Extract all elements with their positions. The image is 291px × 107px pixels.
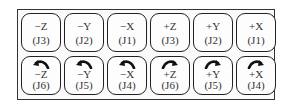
joint-label: (J1) <box>247 34 264 46</box>
jog-minus-ry-j5-button[interactable]: −Y (J5) <box>64 56 104 95</box>
axis-label: +X <box>249 20 263 32</box>
jog-minus-rz-j6-button[interactable]: −Z (J6) <box>21 56 61 95</box>
jog-plus-z-j3-button[interactable]: +Z (J3) <box>150 13 190 52</box>
joint-label: (J3) <box>32 34 49 46</box>
jog-minus-y-j2-button[interactable]: −Y (J2) <box>64 13 104 52</box>
axis-label: +X <box>249 69 263 79</box>
axis-label: +Y <box>206 20 220 32</box>
axis-label: −Y <box>77 20 91 32</box>
axis-label: +Y <box>206 69 220 79</box>
joint-label: (J5) <box>204 79 221 91</box>
joint-label: (J1) <box>118 34 135 46</box>
axis-label: −X <box>120 69 134 79</box>
joint-label: (J2) <box>204 34 221 46</box>
joint-label: (J3) <box>161 34 178 46</box>
axis-label: −Z <box>35 20 48 32</box>
axis-label: −Z <box>35 69 48 79</box>
joint-label: (J6) <box>32 79 49 91</box>
jog-plus-x-j1-button[interactable]: +X (J1) <box>236 13 276 52</box>
jog-minus-rx-j4-button[interactable]: −X (J4) <box>107 56 147 95</box>
axis-label: +Z <box>164 20 177 32</box>
jog-minus-z-j3-button[interactable]: −Z (J3) <box>21 13 61 52</box>
axis-label: +Z <box>164 69 177 79</box>
jog-minus-x-j1-button[interactable]: −X (J1) <box>107 13 147 52</box>
joint-label: (J4) <box>247 79 264 91</box>
axis-label: −Y <box>77 69 91 79</box>
joint-label: (J5) <box>75 79 92 91</box>
axis-label: −X <box>120 20 134 32</box>
jog-plus-y-j2-button[interactable]: +Y (J2) <box>193 13 233 52</box>
jog-plus-rx-j4-button[interactable]: +X (J4) <box>236 56 276 95</box>
joint-label: (J4) <box>118 79 135 91</box>
jog-button-grid: −Z (J3) −Y (J2) −X (J1) +Z (J3) +Y (J2) … <box>21 13 276 95</box>
jog-plus-rz-j6-button[interactable]: +Z (J6) <box>150 56 190 95</box>
joint-label: (J6) <box>161 79 178 91</box>
joint-label: (J2) <box>75 34 92 46</box>
jog-button-panel: −Z (J3) −Y (J2) −X (J1) +Z (J3) +Y (J2) … <box>17 9 275 100</box>
jog-plus-ry-j5-button[interactable]: +Y (J5) <box>193 56 233 95</box>
